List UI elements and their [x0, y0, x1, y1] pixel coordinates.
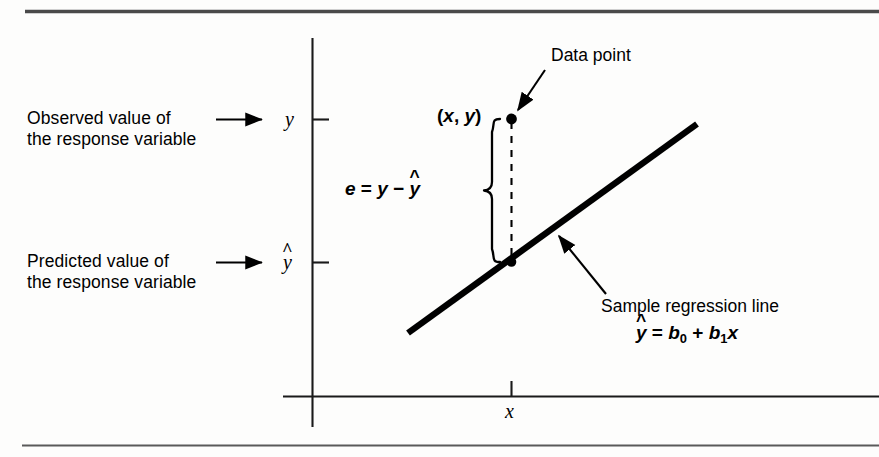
- observed-value-label: Observed value of the response variable: [27, 108, 196, 149]
- observed-value-line-2: the response variable: [27, 129, 196, 150]
- equation-equals: =: [647, 322, 669, 343]
- predicted-value-line-1: Predicted value of: [27, 251, 196, 272]
- equation-y-hat-caret: ^: [636, 311, 646, 332]
- pair-x: x: [443, 105, 454, 126]
- pair-comma: ,: [454, 105, 465, 126]
- residual-y-hat-glyph: ^y: [409, 178, 420, 200]
- equation-b0: b: [668, 322, 680, 343]
- sample-regression-line-arrow: [559, 236, 606, 294]
- observed-value-line-1: Observed value of: [27, 108, 196, 129]
- equation-b1: b: [709, 322, 721, 343]
- y-axis-tick-label-observed: y: [285, 108, 294, 132]
- predicted-value-line-2: the response variable: [27, 272, 196, 293]
- regression-equation: ^y = b0 + b1x: [636, 322, 738, 346]
- residual-brace: [484, 119, 500, 262]
- pair-close-paren: ): [475, 105, 481, 126]
- y-hat-caret: ^: [282, 240, 293, 262]
- data-point-arrow: [518, 70, 545, 110]
- sample-regression-line-callout-label: Sample regression line: [601, 296, 779, 317]
- residual-y-hat-caret: ^: [409, 167, 419, 188]
- residual-equals: =: [356, 178, 378, 199]
- predicted-point-dot: [507, 257, 517, 267]
- residual-formula: e = y − ^y: [345, 178, 420, 200]
- coordinate-pair-label: (x, y): [437, 105, 481, 127]
- pair-y: y: [464, 105, 475, 126]
- regression-residual-figure: Observed value of the response variable …: [0, 0, 879, 457]
- data-point-dot: [506, 114, 517, 125]
- equation-b0-subscript: 0: [680, 331, 687, 346]
- data-point-callout-label: Data point: [551, 45, 631, 66]
- residual-minus: −: [388, 178, 410, 199]
- x-axis-tick-label: x: [505, 400, 514, 424]
- residual-y: y: [377, 178, 388, 199]
- y-hat-glyph: ^y: [283, 251, 292, 275]
- equation-y-hat-glyph: ^y: [636, 322, 647, 344]
- residual-e: e: [345, 178, 356, 199]
- equation-x: x: [727, 322, 738, 343]
- diagram-canvas: [0, 0, 879, 457]
- equation-plus: +: [687, 322, 709, 343]
- y-axis-tick-label-predicted: ^y: [283, 251, 292, 275]
- predicted-value-label: Predicted value of the response variable: [27, 251, 196, 292]
